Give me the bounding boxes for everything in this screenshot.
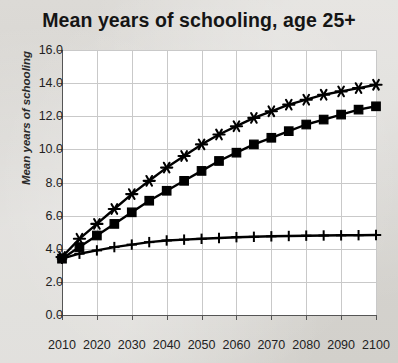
- y-tick-label: 0.0: [13, 308, 63, 322]
- data-point-square: [180, 177, 189, 186]
- data-point-square: [197, 167, 206, 176]
- x-tick-label: 2100: [353, 338, 398, 352]
- data-point-square: [215, 157, 224, 166]
- y-tick-label: 16.0: [13, 43, 63, 57]
- y-tick-label: 10.0: [13, 142, 63, 156]
- chart-plot-area: 0.02.04.06.08.010.012.014.016.0 20102020…: [0, 0, 398, 363]
- data-point-square: [128, 208, 136, 217]
- data-point-square: [162, 187, 171, 196]
- y-tick-label: 2.0: [13, 275, 63, 289]
- data-point-square: [354, 105, 363, 114]
- data-point-square: [110, 220, 119, 229]
- data-point-square: [302, 120, 311, 129]
- y-tick-label: 6.0: [13, 209, 63, 223]
- data-point-square: [319, 115, 328, 124]
- y-tick-label: 12.0: [13, 109, 63, 123]
- y-tick-label: 8.0: [13, 176, 63, 190]
- data-point-square: [285, 127, 294, 136]
- data-point-square: [372, 102, 381, 111]
- data-point-square: [337, 110, 346, 119]
- y-tick-label: 14.0: [13, 76, 63, 90]
- data-point-square: [145, 196, 154, 205]
- y-tick-label: 4.0: [13, 242, 63, 256]
- data-point-square: [232, 148, 241, 157]
- data-point-square: [93, 231, 102, 240]
- plot-background: [62, 50, 376, 315]
- data-point-square: [250, 140, 259, 149]
- data-point-square: [267, 134, 276, 143]
